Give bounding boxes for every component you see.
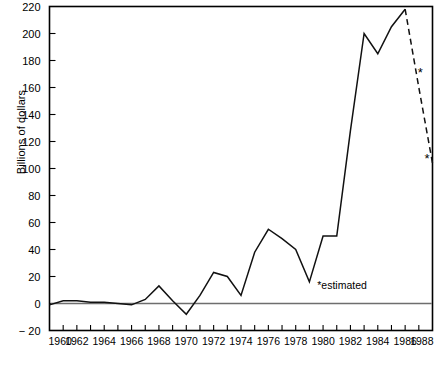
- y-tick-label: 180: [22, 55, 40, 67]
- annotation-layer: ***estimated: [317, 65, 429, 291]
- estimate-marker-1987: *: [418, 65, 423, 80]
- x-tick-label: 1972: [202, 335, 226, 347]
- x-tick-label: 1964: [93, 335, 117, 347]
- y-tick-label: 220: [22, 1, 40, 13]
- chart-figure: Billions of dollars − 200204060801001201…: [0, 0, 444, 368]
- x-tick-label: 1988: [410, 335, 434, 347]
- estimated-footnote: *estimated: [317, 279, 367, 291]
- x-tick-label: 1974: [229, 335, 253, 347]
- chart-svg: − 20020406080100120140160180200220 19601…: [0, 0, 444, 368]
- x-tick-labels: 1960196219641966196819701972197419761978…: [49, 335, 434, 347]
- x-tick-label: 1962: [65, 335, 89, 347]
- y-tick-label: 160: [22, 82, 40, 94]
- y-tick-label: − 20: [19, 325, 41, 337]
- x-tick-label: 1980: [311, 335, 335, 347]
- y-tick-labels: − 20020406080100120140160180200220: [19, 1, 41, 337]
- y-tick-marks: [50, 34, 56, 304]
- x-tick-label: 1968: [147, 335, 171, 347]
- x-tick-label: 1984: [366, 335, 390, 347]
- y-tick-label: 100: [22, 163, 40, 175]
- plot-area-wrapper: − 20020406080100120140160180200220 19601…: [0, 0, 444, 368]
- estimate-marker-1988: *: [424, 151, 429, 166]
- y-tick-label: 60: [28, 217, 40, 229]
- y-tick-label: 40: [28, 244, 40, 256]
- y-tick-label: 20: [28, 271, 40, 283]
- data-line-actual: [50, 9, 406, 314]
- x-tick-label: 1976: [257, 335, 281, 347]
- x-tick-label: 1966: [120, 335, 144, 347]
- x-tick-label: 1982: [339, 335, 363, 347]
- plot-frame: [50, 7, 433, 331]
- y-tick-label: 80: [28, 190, 40, 202]
- y-tick-label: 200: [22, 28, 40, 40]
- x-tick-marks: [63, 325, 419, 331]
- x-tick-label: 1978: [284, 335, 308, 347]
- y-tick-label: 120: [22, 136, 40, 148]
- y-tick-label: 140: [22, 109, 40, 121]
- data-line-estimated: [405, 9, 432, 163]
- y-tick-label: 0: [34, 298, 40, 310]
- x-tick-label: 1970: [175, 335, 199, 347]
